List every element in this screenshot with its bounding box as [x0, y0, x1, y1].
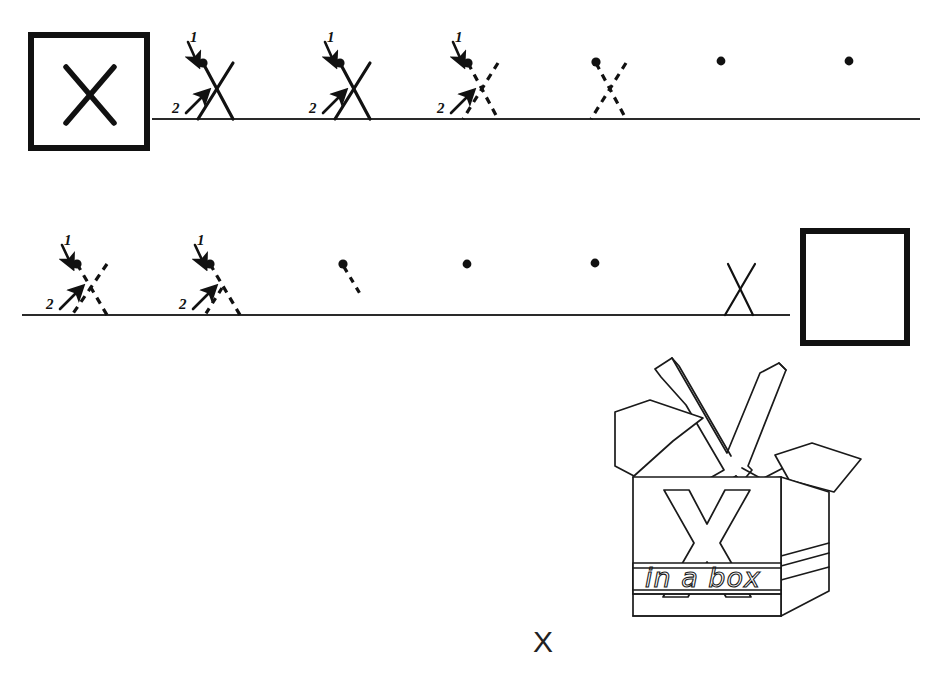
stroke-2-label: 2: [171, 100, 180, 116]
practice-row-2: 1 2 1 2: [22, 232, 790, 315]
trace-glyph-dashed-1: 1 2: [436, 29, 498, 119]
stroke-2-arrow: 2: [178, 291, 211, 312]
trace-glyph-dashed-2: [591, 57, 626, 119]
stroke-1-label: 1: [197, 232, 205, 248]
stroke-2-arrow: 2: [436, 95, 469, 116]
stroke-1-label: 1: [455, 29, 463, 45]
stroke-1-label: 1: [327, 29, 335, 45]
footer-letter: X: [533, 625, 553, 658]
model-letter-box: [31, 35, 147, 148]
trace-glyph-solid-2: 1 2: [308, 29, 370, 119]
trace-glyph-dot-4: [591, 259, 600, 268]
stroke-1-arrow: 1: [188, 29, 198, 60]
stroke-1-label: 1: [190, 29, 198, 45]
stroke-2-label: 2: [45, 296, 54, 312]
stroke-2-arrow: 2: [308, 95, 341, 116]
stroke-1-arrow: 1: [453, 29, 463, 60]
stroke-1-arrow: 1: [195, 232, 205, 262]
stroke-2-label: 2: [308, 100, 317, 116]
stroke-1-arrow: 1: [325, 29, 335, 60]
caption-text: in a box: [645, 562, 761, 593]
empty-practice-box[interactable]: [803, 231, 907, 343]
stroke-2-arrow: 2: [171, 95, 204, 116]
worksheet-page: 1 2 1 2: [0, 0, 947, 691]
stroke-1-label: 1: [64, 232, 72, 248]
trace-glyph-dot-3: [463, 260, 472, 269]
trace-glyph-dashed-3: 1 2: [45, 232, 107, 315]
caption-banner: in a box: [633, 562, 781, 594]
stroke-1-arrow: 1: [62, 232, 72, 262]
stroke-2-arrow: 2: [45, 291, 78, 312]
stroke-2-label: 2: [178, 296, 187, 312]
trace-glyph-dot-2: [845, 57, 854, 66]
trace-glyph-solid-1: 1 2: [171, 29, 233, 119]
practice-row-1: 1 2 1 2: [152, 29, 920, 119]
box-side-face: [781, 477, 829, 616]
x-in-a-box-illustration: in a box: [615, 358, 861, 616]
trace-glyph-dashed-partial: 1 2: [178, 232, 240, 315]
stroke-2-label: 2: [436, 100, 445, 116]
trace-glyph-written: [725, 264, 755, 315]
trace-glyph-dot-1: [717, 57, 726, 66]
trace-glyph-stub: [338, 259, 362, 297]
